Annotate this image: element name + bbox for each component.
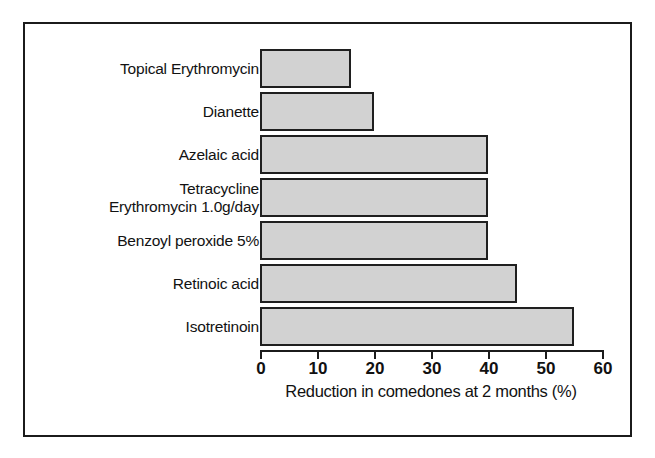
axis-tick [374,350,376,359]
category-label: Isotretinoin [19,318,259,336]
axis-tick [545,350,547,359]
axis-tick-label: 40 [469,359,509,379]
axis-tick-label: 50 [526,359,566,379]
axis-tick-label: 30 [412,359,452,379]
bar [260,135,488,174]
bar [260,307,574,346]
axis-tick-label: 20 [355,359,395,379]
category-label: Azelaic acid [19,146,259,164]
bar [260,49,351,88]
category-label: Dianette [19,103,259,121]
axis-tick [488,350,490,359]
axis-tick [317,350,319,359]
axis-tick [431,350,433,359]
axis-tick [602,350,604,359]
axis-tick-label: 0 [241,359,281,379]
bar [260,264,517,303]
plot-area: Topical ErythromycinDianetteAzelaic acid… [25,24,634,439]
category-label: Topical Erythromycin [19,60,259,78]
figure-root: Topical ErythromycinDianetteAzelaic acid… [0,0,655,458]
category-label: Retinoic acid [19,275,259,293]
bar [260,221,488,260]
axis-tick-label: 60 [583,359,623,379]
bar [260,178,488,217]
axis-tick [260,350,262,359]
category-label: Benzoyl peroxide 5% [19,232,259,250]
bar [260,92,374,131]
x-axis-title: Reduction in comedones at 2 months (%) [260,382,602,401]
chart-frame: Topical ErythromycinDianetteAzelaic acid… [23,22,632,437]
axis-tick-label: 10 [298,359,338,379]
category-label: Tetracycline Erythromycin 1.0g/day [19,180,259,216]
